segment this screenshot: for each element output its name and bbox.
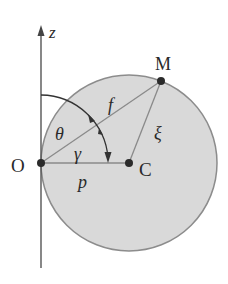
- z-axis-arrow-icon: [38, 25, 45, 36]
- label-theta: θ: [55, 124, 64, 144]
- label-gamma: γ: [74, 144, 82, 164]
- label-p: p: [76, 172, 87, 192]
- point-O: [37, 159, 45, 167]
- point-C: [125, 159, 133, 167]
- label-O: O: [11, 155, 25, 176]
- diagram-canvas: z M O C f ξ p θ γ: [0, 0, 228, 284]
- point-M: [157, 77, 165, 85]
- label-M: M: [155, 54, 171, 74]
- label-xi: ξ: [154, 123, 162, 143]
- z-axis-label: z: [48, 23, 56, 42]
- label-C: C: [139, 159, 152, 180]
